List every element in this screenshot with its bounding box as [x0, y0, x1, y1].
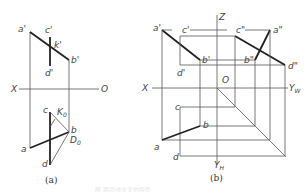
label-a-b: a [154, 142, 160, 152]
label-b-prime: b' [71, 55, 79, 65]
label-b-b: b [203, 120, 209, 130]
label-d-b: d [173, 152, 179, 162]
label-c: c [43, 105, 48, 115]
label-z: Z [218, 12, 226, 22]
label-d-prime: d' [45, 68, 53, 78]
label-x-b: X [141, 83, 149, 93]
diagonal-45 [217, 88, 286, 157]
caption-a: (a) [45, 175, 57, 185]
line-ab-b [162, 126, 200, 140]
panel-b: Z a' c' c" a" b' b" d' d" X O YW c b a d… [141, 12, 302, 183]
caption-b: (b) [210, 173, 223, 183]
label-o-b: O [222, 75, 229, 85]
label-d-prime-b: d' [177, 68, 185, 78]
label-x-a: X [10, 84, 18, 94]
label-a-dprime: a" [273, 25, 283, 35]
label-b: b [71, 125, 77, 135]
label-c-prime: c' [45, 25, 52, 35]
label-a: a [21, 144, 27, 154]
label-b-prime-b: b' [202, 55, 210, 65]
panel-a: a' c' k' b' d' X O c K0 b D0 a d (a) [10, 24, 108, 185]
label-d: d [42, 159, 48, 169]
label-d-dprime: d" [288, 61, 298, 71]
label-c-prime-b: c' [182, 25, 189, 35]
label-yh: YH [214, 160, 225, 171]
label-a-prime: a' [18, 24, 26, 34]
line-a-prime-b-prime-b [162, 30, 200, 60]
label-b-dprime: b" [244, 55, 254, 65]
label-c-b: c [175, 102, 180, 112]
label-a-prime-b: a' [153, 23, 161, 33]
figure-caption: 图 两直线交叉的投影 [95, 187, 215, 192]
aux-d-b [50, 132, 69, 165]
label-c-dprime: c" [236, 25, 245, 35]
projection-figure: a' c' k' b' d' X O c K0 b D0 a d (a) [0, 0, 307, 196]
label-k-prime: k' [54, 40, 62, 50]
label-o-a: O [101, 84, 108, 94]
label-k0: K0 [57, 107, 67, 118]
label-d0: D0 [70, 135, 81, 146]
label-yw: YW [289, 83, 302, 94]
